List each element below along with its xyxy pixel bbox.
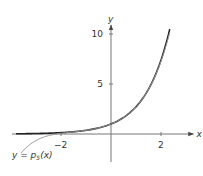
annotation-suffix: (x) (40, 150, 52, 160)
x-tick-label: −2 (54, 140, 67, 150)
y-tick-label: 10 (92, 29, 104, 39)
taylor-p5-curve (21, 33, 170, 154)
chart: −22510 x y y = p5(x) (0, 0, 202, 176)
y-axis-label: y (107, 14, 114, 24)
y-tick-label: 5 (97, 79, 103, 89)
annotation-prefix: y = (11, 150, 31, 160)
x-tick-label: 2 (158, 140, 164, 150)
exp-curve (16, 29, 170, 134)
curve-label-p5: y = p5(x) (11, 150, 53, 161)
x-axis-label: x (196, 129, 203, 139)
